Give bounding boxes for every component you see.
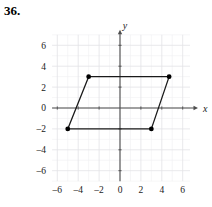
coordinate-plane-figure: –6–4–20246 6420–2–4–6 xy (0, 0, 212, 207)
x-tick-label: –4 (72, 185, 83, 195)
x-axis-tick-labels: –6–4–20246 (52, 185, 186, 195)
y-axis-label: y (122, 20, 128, 31)
y-tick-label: 2 (41, 83, 46, 93)
parallelogram-edges (68, 77, 169, 129)
vertex-point (167, 74, 172, 79)
vertex-point (149, 126, 154, 131)
y-tick-label: –4 (36, 145, 47, 155)
parallelogram-vertices (65, 74, 171, 131)
y-tick-label: –2 (36, 124, 47, 134)
x-tick-label: 0 (118, 185, 123, 195)
polygon-edge (151, 77, 169, 129)
x-tick-label: 6 (180, 185, 185, 195)
y-axis-tick-labels: 6420–2–4–6 (36, 41, 47, 176)
x-tick-label: 2 (139, 185, 144, 195)
x-tick-label: 4 (159, 185, 164, 195)
y-tick-label: 6 (41, 41, 46, 51)
x-tick-label: –2 (93, 185, 104, 195)
vertex-point (65, 126, 70, 131)
axis-names: xy (122, 20, 208, 114)
x-axis-label: x (202, 103, 208, 114)
x-tick-label: –6 (52, 185, 63, 195)
axes (52, 30, 198, 181)
y-tick-label: 0 (41, 103, 46, 113)
vertex-point (86, 74, 91, 79)
y-tick-label: –6 (36, 166, 47, 176)
y-tick-label: 4 (41, 62, 46, 72)
